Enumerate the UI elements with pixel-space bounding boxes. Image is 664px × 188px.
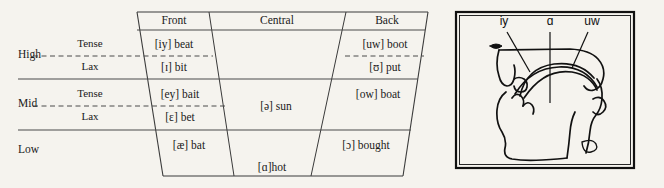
column-header-front: Front [162,14,187,26]
vowel-chart-figure: Front Central Back High Mid Low Tense La… [0,0,664,188]
vowel-table-panel: Front Central Back High Mid Low Tense La… [0,0,440,188]
diagram-label-iy: iy [500,14,509,28]
cell-mid-front-lax: [ɛ] bet [165,111,194,124]
cell-high-back-lax: [ʊ] put [369,61,401,74]
cell-high-front-tense: [iy] beat [155,38,194,51]
column-header-back: Back [375,14,399,26]
row-label-low: Low [18,143,39,155]
tenseness-label-mid-tense: Tense [77,87,103,99]
column-header-central: Central [260,14,294,26]
tenseness-label-mid-lax: Lax [81,110,98,122]
cell-low-front: [æ] bat [173,139,205,152]
cell-high-front-lax: [ɪ] bit [161,61,187,74]
diagram-label-uw: uw [584,14,599,28]
tenseness-label-high-tense: Tense [77,37,103,49]
cell-mid-central: [ə] sun [260,100,292,113]
row-label-mid: Mid [18,97,37,109]
vocal-tract-icon [452,6,638,176]
cell-mid-back: [ow] boat [356,88,400,101]
cell-high-back-tense: [uw] boot [362,38,407,51]
vocal-tract-diagram-panel: iy ɑ uw [452,6,638,176]
cell-low-back: [ɔ] bought [342,139,390,152]
cell-mid-front-tense: [ey] bait [161,88,200,101]
diagram-label-a: ɑ [547,14,554,28]
tenseness-label-high-lax: Lax [81,60,98,72]
row-label-high: High [18,48,41,60]
cell-low-central: [ɑ]hot [258,161,286,174]
